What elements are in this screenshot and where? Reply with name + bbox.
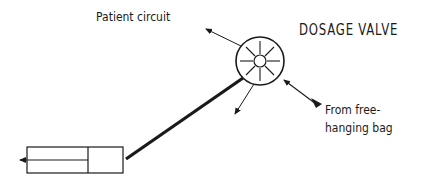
dosage-valve [236, 37, 284, 85]
bag-inlet-arrow [284, 80, 322, 108]
valve-spokes [240, 41, 280, 81]
exhaust-arrow [235, 84, 254, 114]
syringe [20, 147, 123, 173]
diagram-title: DOSAGE VALVE [299, 21, 398, 39]
from-bag-label-line1: From free- [325, 102, 380, 119]
patient-circuit-arrow [206, 29, 241, 46]
from-bag-label-line2: hanging bag [325, 120, 393, 137]
patient-circuit-label: Patient circuit [96, 9, 170, 26]
connecting-tube [126, 78, 243, 159]
